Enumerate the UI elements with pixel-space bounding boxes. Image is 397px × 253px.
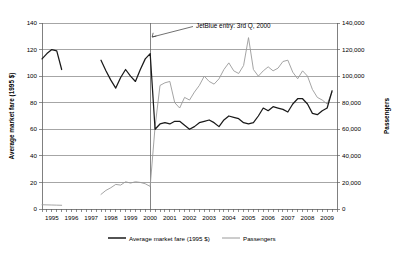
dual-axis-line-chart: 020406080100120140 020,00040,00060,00080… — [0, 0, 397, 253]
y-right-tick-label: 100,000 — [342, 72, 365, 79]
y-right-tick-label: 40,000 — [342, 152, 361, 159]
y-left-tick-label: 60 — [30, 125, 37, 132]
x-tick-label: 2002 — [183, 214, 197, 221]
y-left-tick-label: 40 — [30, 152, 37, 159]
x-tick-label: 2004 — [222, 214, 236, 221]
jetblue-entry-annotation-label: JetBlue entry: 3rd Q, 2000 — [196, 22, 271, 30]
y-right-tick-label: 20,000 — [342, 179, 361, 186]
x-tick-label: 1996 — [65, 214, 79, 221]
y-left-tick-label: 0 — [34, 205, 38, 212]
y-left-tick-label: 80 — [30, 99, 37, 106]
x-tick-label: 1999 — [124, 214, 138, 221]
x-tick-label: 2001 — [163, 214, 177, 221]
legend-label-average-market-fare: Average market fare (1995 $) — [129, 235, 210, 242]
chart-figure: 020406080100120140 020,00040,00060,00080… — [0, 0, 397, 253]
y-right-tick-label: 0 — [342, 205, 346, 212]
x-tick-label: 2003 — [202, 214, 216, 221]
y-left-tick-label: 120 — [27, 46, 38, 53]
y-left-tick-label: 20 — [30, 179, 37, 186]
chart-legend: Average market fare (1995 $) Passengers — [108, 235, 276, 242]
x-tick-label: 2009 — [320, 214, 334, 221]
y-right-axis-title: Passengers — [383, 98, 391, 134]
y-right-tick-label: 120,000 — [342, 46, 365, 53]
x-tick-label: 2005 — [242, 214, 256, 221]
x-tick-label: 1997 — [84, 214, 98, 221]
legend-label-passengers: Passengers — [243, 235, 276, 242]
x-tick-label: 1995 — [45, 214, 59, 221]
x-tick-label: 1998 — [104, 214, 118, 221]
y-right-tick-label: 140,000 — [342, 19, 365, 26]
chart-background — [0, 0, 397, 253]
x-tick-group: 1995199619971998199920002001200220032004… — [42, 209, 337, 221]
x-tick-label: 2007 — [281, 214, 295, 221]
y-right-tick-label: 80,000 — [342, 99, 361, 106]
y-right-tick-label: 60,000 — [342, 125, 361, 132]
y-left-axis-title: Average market fare (1995 $) — [8, 73, 16, 160]
y-left-tick-label: 100 — [27, 72, 38, 79]
x-tick-label: 2008 — [301, 214, 315, 221]
x-tick-label: 2006 — [261, 214, 275, 221]
y-left-tick-label: 140 — [27, 19, 38, 26]
x-tick-label: 2000 — [143, 214, 157, 221]
